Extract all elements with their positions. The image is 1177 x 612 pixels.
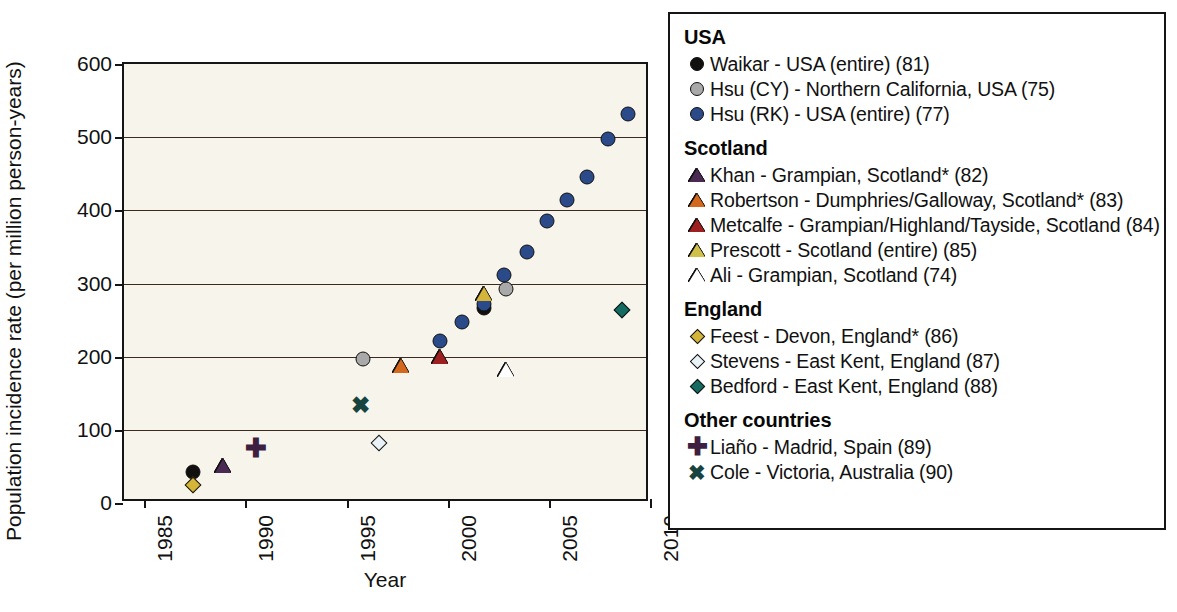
triangle-marker-icon [689, 269, 705, 282]
x-tick-label: 1995 [356, 515, 380, 562]
legend-item[interactable]: Metcalfe - Grampian/Highland/Tayside, Sc… [684, 213, 1164, 237]
legend-item[interactable]: Robertson - Dumphries/Galloway, Scotland… [684, 188, 1164, 212]
diamond-marker-icon [689, 328, 705, 344]
data-point [184, 476, 201, 493]
data-point [519, 245, 534, 260]
y-tick-mark [115, 430, 123, 432]
legend-item-label: Metcalfe - Grampian/Highland/Tayside, Sc… [710, 214, 1160, 237]
legend-group-heading: USA [684, 26, 1164, 49]
diamond-marker-icon [689, 353, 705, 369]
legend-marker-swatch [684, 350, 710, 372]
legend-group: USAWaikar - USA (entire) (81)Hsu (CY) - … [684, 26, 1164, 126]
x-tick-label: 2000 [457, 515, 481, 562]
legend-marker-swatch [684, 239, 710, 261]
data-point: ✖ [353, 398, 368, 413]
legend-item[interactable]: ✚Liaño - Madrid, Spain (89) [684, 435, 1164, 459]
data-point [560, 193, 575, 208]
legend-item-label: Hsu (CY) - Northern California, USA (75) [710, 78, 1055, 101]
y-tick-mark [115, 503, 123, 505]
diamond-marker-icon [689, 378, 705, 394]
legend-item-label: Prescott - Scotland (entire) (85) [710, 239, 977, 262]
legend-item-label: Bedford - East Kent, England (88) [710, 375, 998, 398]
legend-item-label: Feest - Devon, England* (86) [710, 325, 958, 348]
x-tick-mark [448, 499, 450, 508]
legend-item-label: Waikar - USA (entire) (81) [710, 53, 930, 76]
legend-marker-swatch [684, 375, 710, 397]
legend-group-heading: Scotland [684, 137, 1164, 160]
y-tick-label: 100 [77, 418, 112, 442]
legend-group-heading: Other countries [684, 409, 1164, 432]
data-point [499, 281, 514, 296]
circle-marker-icon [690, 82, 704, 96]
x-tick-mark [549, 499, 551, 508]
legend-item[interactable]: Hsu (RK) - USA (entire) (77) [684, 102, 1164, 126]
y-tick-mark [115, 357, 123, 359]
cross-marker-icon: ✖ [690, 465, 704, 479]
data-point [497, 267, 512, 282]
data-point [432, 334, 447, 349]
x-tick-mark [245, 499, 247, 508]
x-tick-mark [650, 499, 652, 508]
y-tick-label: 300 [77, 272, 112, 296]
legend-item[interactable]: Bedford - East Kent, England (88) [684, 374, 1164, 398]
legend-group: ScotlandKhan - Grampian, Scotland* (82)R… [684, 137, 1164, 287]
x-axis-label: Year [122, 568, 648, 592]
data-point [454, 314, 469, 329]
legend-group-heading: England [684, 298, 1164, 321]
legend-marker-swatch: ✚ [684, 436, 710, 458]
gridline [124, 284, 646, 285]
legend-item[interactable]: Prescott - Scotland (entire) (85) [684, 238, 1164, 262]
triangle-marker-icon [689, 219, 705, 232]
legend-item-label: Liaño - Madrid, Spain (89) [710, 436, 932, 459]
data-point [498, 363, 514, 377]
y-tick-mark [115, 284, 123, 286]
legend-item-label: Robertson - Dumphries/Galloway, Scotland… [710, 189, 1123, 212]
data-point [370, 435, 387, 452]
data-point [539, 213, 554, 228]
triangle-marker-icon [689, 244, 705, 257]
data-point [355, 351, 370, 366]
legend-item[interactable]: ✖Cole - Victoria, Australia (90) [684, 460, 1164, 484]
circle-marker-icon [690, 57, 704, 71]
y-tick-mark [115, 137, 123, 139]
data-point [432, 350, 448, 364]
plot-area: 0100200300400500600 19851990199520002005… [122, 62, 648, 501]
circle-marker-icon [690, 107, 704, 121]
legend-marker-swatch [684, 214, 710, 236]
x-tick-mark [347, 499, 349, 508]
triangle-marker-icon [689, 169, 705, 182]
legend-item[interactable]: Khan - Grampian, Scotland* (82) [684, 163, 1164, 187]
triangle-marker-icon [689, 194, 705, 207]
y-axis-label: Population incidence rate (per million p… [2, 71, 26, 541]
legend-item-label: Ali - Grampian, Scotland (74) [710, 264, 957, 287]
y-tick-mark [115, 64, 123, 66]
legend-item-label: Khan - Grampian, Scotland* (82) [710, 164, 988, 187]
legend-item[interactable]: Waikar - USA (entire) (81) [684, 52, 1164, 76]
legend-group: EnglandFeest - Devon, England* (86)Steve… [684, 298, 1164, 398]
gridline [124, 210, 646, 211]
legend-marker-swatch [684, 103, 710, 125]
legend-item-label: Hsu (RK) - USA (entire) (77) [710, 103, 950, 126]
legend-marker-swatch [684, 53, 710, 75]
legend-item[interactable]: Ali - Grampian, Scotland (74) [684, 263, 1164, 287]
data-point [613, 301, 630, 318]
gridline [124, 357, 646, 358]
data-point [600, 132, 615, 147]
y-tick-mark [115, 210, 123, 212]
y-tick-label: 600 [77, 52, 112, 76]
legend-marker-swatch [684, 325, 710, 347]
data-point [580, 170, 595, 185]
legend-item[interactable]: Stevens - East Kent, England (87) [684, 349, 1164, 373]
legend-marker-swatch [684, 189, 710, 211]
y-tick-label: 0 [100, 491, 112, 515]
data-point [215, 459, 231, 473]
y-tick-label: 200 [77, 345, 112, 369]
x-tick-label: 1990 [254, 515, 278, 562]
chart-panel: Population incidence rate (per million p… [0, 0, 662, 612]
legend-marker-swatch: ✖ [684, 461, 710, 483]
plus-marker-icon: ✚ [690, 440, 704, 454]
legend-marker-swatch [684, 78, 710, 100]
legend-item[interactable]: Hsu (CY) - Northern California, USA (75) [684, 77, 1164, 101]
legend-panel: USAWaikar - USA (entire) (81)Hsu (CY) - … [668, 12, 1166, 530]
legend-item[interactable]: Feest - Devon, England* (86) [684, 324, 1164, 348]
